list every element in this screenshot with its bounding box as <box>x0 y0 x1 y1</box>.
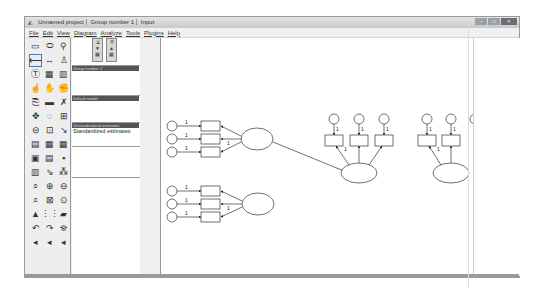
save-tool[interactable]: ▪ <box>57 152 70 165</box>
zoom-in-tool[interactable]: ⊕ <box>43 180 56 193</box>
structural-path <box>273 142 344 171</box>
zoom-out-tool[interactable]: ⊖ <box>57 180 70 193</box>
svg-text:1: 1 <box>227 140 230 146</box>
menu-plugins[interactable]: Plugins <box>144 30 164 36</box>
deselect-all-tool[interactable]: ✊ <box>57 82 70 95</box>
draw-path-icon: ⟵ <box>29 56 42 65</box>
draw-unobserved-variable-icon: ⬭ <box>46 42 54 51</box>
svg-text:1: 1 <box>227 205 230 211</box>
estimates-standardized[interactable]: Standardized estimates <box>72 128 140 134</box>
reflect-tool[interactable]: ⊞ <box>57 110 70 123</box>
menu-file[interactable]: File <box>29 30 39 36</box>
move-parameter-icon: ⊖ <box>32 126 40 135</box>
data-files-tool[interactable]: ▤ <box>29 138 42 151</box>
menu-tools[interactable]: Tools <box>126 30 140 36</box>
title-mode: Input <box>139 19 156 25</box>
path-diagram-view-buttons: ⇊▼▦ ⇈▲▦ <box>72 38 140 65</box>
print-tool[interactable]: ▰ <box>57 208 70 221</box>
loupe-icon: ⊙ <box>60 196 68 205</box>
list-variables-model-icon: ▦ <box>45 70 54 79</box>
arrow-left-icon-1: ◂ <box>33 238 38 247</box>
move-parameter-tool[interactable]: ⊖ <box>29 124 42 137</box>
window-controls: – □ × <box>474 18 517 25</box>
menu-view[interactable]: View <box>57 30 70 36</box>
groups-panel: Group number 1 <box>72 65 140 96</box>
view-input-path-diagram-button[interactable]: ⇊▼▦ <box>92 38 103 62</box>
app-window: ◭ Unnamed project Group number 1 Input –… <box>24 16 520 278</box>
menu-help[interactable]: Help <box>168 30 180 36</box>
scroll-tool[interactable]: ⊡ <box>43 124 56 137</box>
select-one-tool[interactable]: ☝ <box>29 82 42 95</box>
factor-3-group <box>325 114 393 183</box>
redo-icon: ↷ <box>46 224 54 233</box>
draw-covariance-tool[interactable]: ↔ <box>43 54 56 67</box>
window-title: Unnamed project Group number 1 Input <box>36 18 156 26</box>
draw-path-tool[interactable]: ⟵ <box>29 54 42 67</box>
arrow-left-tool[interactable]: ◂ <box>57 236 70 249</box>
list-variables-dataset-tool[interactable]: ▥ <box>57 68 70 81</box>
select-one-icon: ☝ <box>30 84 41 93</box>
page-boundary-line <box>468 20 469 288</box>
close-button[interactable]: × <box>501 18 517 25</box>
figure-caption-tool[interactable]: Ⓣ <box>29 68 42 81</box>
reflect-icon: ⊞ <box>60 112 68 121</box>
deselect-all-icon: ✊ <box>58 84 69 93</box>
draw-observed-variable-tool[interactable]: ▭ <box>29 40 42 53</box>
drawing-canvas[interactable]: 1 1 1 1 1 1 1 1 1 1 1 1 1 1 1 <box>160 38 474 276</box>
preserve-symmetries-tool[interactable]: ⁂ <box>57 166 70 179</box>
zoom-page-tool[interactable]: ⌕ <box>29 194 42 207</box>
undo-icon: ↶ <box>32 224 40 233</box>
model-item-selected[interactable]: Default model <box>72 96 139 101</box>
menu-edit[interactable]: Edit <box>43 30 53 36</box>
side-panels: ⇊▼▦ ⇈▲▦ Group number 1 Default model Uns… <box>72 38 140 276</box>
calculate-estimates-tool[interactable]: ▦ <box>57 138 70 151</box>
arrow-left-icon-2: ◂ <box>47 238 52 247</box>
svg-text:1: 1 <box>361 126 364 132</box>
maximize-button[interactable]: □ <box>488 18 500 25</box>
menu-diagram[interactable]: Diagram <box>74 30 97 36</box>
add-unique-variable-tool[interactable]: ♙ <box>57 54 70 67</box>
fit-page-tool[interactable]: ⊠ <box>43 194 56 207</box>
draw-latent-indicator-tool[interactable]: ⚲ <box>57 40 70 53</box>
object-properties-tool[interactable]: ▥ <box>29 166 42 179</box>
preserve-symmetries-icon: ⁂ <box>59 168 68 177</box>
redo-tool[interactable]: ↷ <box>43 222 56 235</box>
erase-tool[interactable]: ✗ <box>57 96 70 109</box>
copy-clipboard-tool[interactable]: ▣ <box>29 152 42 165</box>
group-item-selected[interactable]: Group number 1 <box>72 66 139 71</box>
undo-tool[interactable]: ↶ <box>29 222 42 235</box>
list-variables-dataset-icon: ▥ <box>59 70 68 79</box>
minimize-button[interactable]: – <box>475 18 487 25</box>
factor-2-group <box>167 186 274 222</box>
view-text-tool[interactable]: ▤ <box>43 152 56 165</box>
arrow-left-tool[interactable]: ◂ <box>29 236 42 249</box>
loupe-tool[interactable]: ⊙ <box>57 194 70 207</box>
specification-search-tool[interactable]: ⛯ <box>57 222 70 235</box>
move-tool[interactable]: ▬ <box>43 96 56 109</box>
computation-summary-panel <box>72 146 140 178</box>
print-icon: ▰ <box>60 210 67 219</box>
svg-text:1: 1 <box>185 132 188 138</box>
menu-bar: File Edit View Diagram Analyze Tools Plu… <box>25 28 519 38</box>
zoom-selected-tool[interactable]: ⌕ <box>29 180 42 193</box>
drag-properties-tool[interactable]: ⇘ <box>43 166 56 179</box>
app-icon: ◭ <box>28 19 34 25</box>
svg-text:1: 1 <box>185 184 188 190</box>
menu-analyze[interactable]: Analyze <box>101 30 122 36</box>
list-variables-model-tool[interactable]: ▦ <box>43 68 56 81</box>
view-output-path-diagram-button[interactable]: ⇈▲▦ <box>106 38 117 62</box>
select-all-tool[interactable]: ✋ <box>43 82 56 95</box>
zoom-page-icon: ⌕ <box>33 196 38 205</box>
draw-latent-indicator-icon: ⚲ <box>60 42 67 51</box>
arrow-left-tool[interactable]: ◂ <box>43 236 56 249</box>
touch-up-tool[interactable]: ↘ <box>57 124 70 137</box>
svg-text:1: 1 <box>336 126 339 132</box>
rotate-tool[interactable]: ◌ <box>43 110 56 123</box>
multiple-group-tool[interactable]: ⋮⋮ <box>43 208 56 221</box>
touch-up-icon: ↘ <box>60 126 68 135</box>
object-properties-icon: ▥ <box>31 168 40 177</box>
duplicate-tool[interactable]: ⎘ <box>29 96 42 109</box>
change-shape-tool[interactable]: ✥ <box>29 110 42 123</box>
draw-unobserved-variable-tool[interactable]: ⬭ <box>43 40 56 53</box>
analysis-properties-tool[interactable]: ▦ <box>43 138 56 151</box>
